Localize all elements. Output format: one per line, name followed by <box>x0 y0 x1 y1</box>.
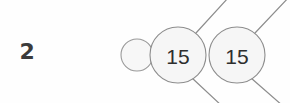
second-value-circle-label: 15 <box>225 45 248 68</box>
number-bond-diagram: 15 15 <box>0 0 290 103</box>
connector-down-left-line <box>192 78 222 103</box>
node-first-value-circle[interactable]: 15 <box>150 27 206 83</box>
connector-up-left-line <box>196 0 228 33</box>
worksheet-fragment: 2 15 15 <box>0 0 290 103</box>
node-second-value-circle[interactable]: 15 <box>209 27 265 83</box>
first-value-circle-label: 15 <box>166 45 189 68</box>
empty-small-circle-shape[interactable] <box>121 39 153 71</box>
node-empty-small-circle[interactable] <box>121 39 153 71</box>
connector-down-right-line <box>251 78 283 103</box>
connector-up-right-line <box>255 0 290 33</box>
